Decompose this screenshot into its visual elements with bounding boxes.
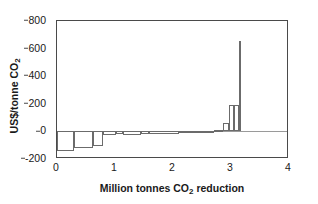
y-axis-tick-label: -200 — [25, 153, 46, 164]
y-axis-tick-label: 600 — [28, 42, 46, 53]
y-axis-tick-mark — [24, 103, 28, 104]
bar — [193, 131, 205, 133]
bar — [74, 131, 93, 147]
chart-figure: -2000200400600800 US$/tonne CO2 01234 Mi… — [0, 0, 318, 204]
bar — [123, 131, 141, 134]
bar — [239, 41, 241, 131]
y-axis-title-text: US$/tonne CO — [8, 63, 20, 134]
x-axis-tick-label: 0 — [53, 162, 59, 173]
bar — [141, 131, 149, 134]
y-axis-title-subscript: 2 — [13, 58, 22, 62]
x-axis-title-text: Million tonnes CO — [100, 182, 189, 194]
bar — [179, 131, 194, 133]
bar — [214, 130, 223, 132]
y-axis-tick-label: 800 — [28, 15, 46, 26]
x-axis-tick-label: 4 — [285, 162, 291, 173]
y-axis-tick-mark — [36, 130, 40, 131]
y-axis-tick-label: 400 — [28, 70, 46, 81]
y-axis-title: US$/tonne CO2 — [8, 41, 22, 151]
x-axis-tick-labels: 01234 — [56, 160, 288, 176]
bar — [116, 131, 123, 134]
y-axis-tick-label: 200 — [28, 98, 46, 109]
x-axis-tick-label: 3 — [227, 162, 233, 173]
x-axis-tick-label: 2 — [169, 162, 175, 173]
y-axis-tick-label: 0 — [40, 125, 46, 136]
y-axis-tick-mark — [21, 158, 25, 159]
bar — [103, 131, 116, 135]
plot-area — [57, 21, 287, 157]
bar — [205, 131, 214, 133]
y-axis-tick-mark — [24, 20, 28, 21]
bar — [57, 131, 74, 151]
bar — [149, 131, 179, 133]
x-axis-tick-label: 1 — [111, 162, 117, 173]
bar — [93, 131, 103, 145]
x-axis-title: Million tonnes CO2 reduction — [56, 182, 288, 196]
y-axis-tick-mark — [24, 75, 28, 76]
y-axis-tick-mark — [24, 48, 28, 49]
plot-frame — [56, 20, 288, 158]
x-axis-title-tail: reduction — [193, 182, 244, 194]
